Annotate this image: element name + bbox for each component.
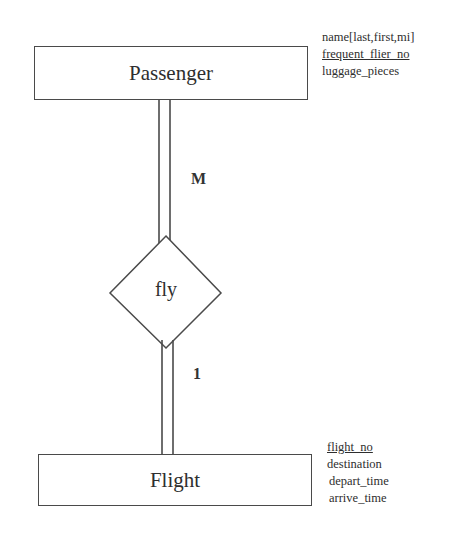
relationship-name: fly [136,278,196,301]
attribute: luggage_pieces [322,63,414,80]
attribute: name[last,first,mi] [322,29,414,46]
key-attribute: frequent_flier_no [322,46,414,63]
er-diagram: Passenger name[last,first,mi] frequent_f… [0,0,467,544]
attribute: destination [327,456,389,473]
key-attribute: flight_no [327,439,389,456]
entity-passenger: Passenger [34,46,308,100]
passenger-attributes: name[last,first,mi] frequent_flier_no lu… [322,29,414,80]
attribute: depart_time [327,473,389,490]
entity-name: Passenger [129,61,213,86]
attribute: arrive_time [327,490,389,507]
cardinality-label-1: 1 [193,365,201,383]
entity-name: Flight [150,468,200,493]
flight-attributes: flight_no destination depart_time arrive… [327,439,389,507]
cardinality-label-m: M [191,170,206,188]
entity-flight: Flight [38,454,312,506]
